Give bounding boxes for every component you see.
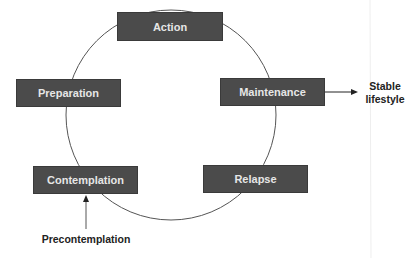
stage-relapse: Relapse (203, 165, 308, 193)
stage-maintenance: Maintenance (220, 78, 325, 106)
stage-label: Action (153, 21, 187, 33)
entry-label: Precontemplation (26, 233, 146, 246)
stage-preparation: Preparation (16, 79, 121, 107)
stage-contemplation: Contemplation (33, 166, 138, 194)
stage-label: Preparation (38, 87, 99, 99)
exit-label-line1: Stable (355, 80, 415, 93)
page-edge-line (370, 0, 371, 258)
exit-label-line2: lifestyle (355, 93, 415, 106)
stage-label: Maintenance (239, 86, 306, 98)
stage-action: Action (117, 12, 223, 41)
stage-label: Relapse (234, 173, 276, 185)
entry-arrowhead-icon (83, 195, 89, 202)
exit-label: Stable lifestyle (355, 80, 415, 106)
stage-label: Contemplation (47, 174, 124, 186)
